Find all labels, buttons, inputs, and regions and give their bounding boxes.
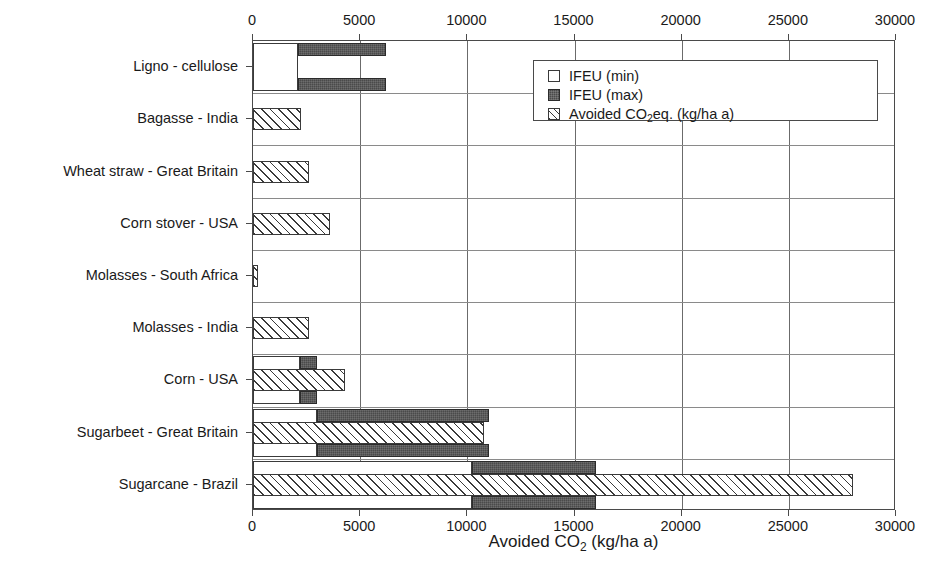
category-tick [246, 327, 252, 328]
x-axis-title-sub: 2 [580, 540, 587, 554]
top-tick-label-0: 0 [248, 12, 256, 28]
tick-5000 [359, 510, 360, 516]
tick-0 [252, 34, 253, 40]
category-label-sugarbeet-great-britain: Sugarbeet - Great Britain [77, 424, 238, 440]
category-label-molasses-india: Molasses - India [132, 319, 238, 335]
category-label-sugarcane-brazil: Sugarcane - Brazil [119, 476, 238, 492]
category-tick [246, 223, 252, 224]
category-separator [253, 198, 894, 199]
legend-label-ifeu-min: IFEU (min) [569, 68, 639, 84]
x-axis-title-post: (kg/ha a) [587, 532, 659, 551]
category-tick [246, 484, 252, 485]
top-tick-label-20000: 20000 [660, 12, 700, 28]
tick-5000 [359, 34, 360, 40]
category-tick [246, 379, 252, 380]
bar-avoided-co2-corn-stover-usa [253, 213, 330, 235]
category-separator [253, 354, 894, 355]
legend-label-ifeu-max: IFEU (max) [569, 87, 643, 103]
tick-10000 [466, 34, 467, 40]
avoided-co2-bar-chart: Ligno - celluloseBagasse - IndiaWheat st… [0, 0, 941, 586]
tick-30000 [895, 510, 896, 516]
tick-25000 [788, 34, 789, 40]
bar-ifeu-max-lower-sugarbeet-great-britain [317, 444, 488, 457]
legend-swatch-ifeu-max [548, 89, 560, 101]
category-separator [253, 407, 894, 408]
category-tick [246, 171, 252, 172]
category-tick [246, 66, 252, 67]
bar-ifeu-max-lower-ligno-cellulose [298, 78, 386, 91]
top-tick-label-30000: 30000 [875, 12, 915, 28]
category-label-bagasse-india: Bagasse - India [137, 110, 238, 126]
bottom-value-axis: 050001000015000200002500030000 [252, 510, 895, 511]
legend-item-ifeu-min: IFEU (min) [548, 67, 877, 85]
category-label-ligno-cellulose: Ligno - cellulose [133, 58, 238, 74]
tick-20000 [681, 510, 682, 516]
tick-30000 [895, 34, 896, 40]
top-tick-label-25000: 25000 [768, 12, 808, 28]
chart-legend: IFEU (min) IFEU (max) Avoided CO2eq. (kg… [533, 60, 878, 121]
bar-ifeu-max-upper-ligno-cellulose [298, 43, 386, 56]
legend-label-avoided-co2-post: eq. (kg/ha a) [653, 106, 734, 122]
top-tick-label-10000: 10000 [446, 12, 486, 28]
legend-label-avoided-co2-sub: 2 [647, 112, 653, 124]
bar-avoided-co2-wheat-straw-great-britain [253, 161, 309, 183]
category-separator [253, 459, 894, 460]
x-axis-title-pre: Avoided CO [489, 532, 580, 551]
category-separator [253, 145, 894, 146]
bar-avoided-co2-corn-usa [253, 369, 345, 391]
bar-avoided-co2-bagasse-india [253, 108, 301, 130]
legend-label-avoided-co2-pre: Avoided CO [569, 106, 647, 122]
top-tick-label-15000: 15000 [553, 12, 593, 28]
tick-25000 [788, 510, 789, 516]
bar-avoided-co2-sugarbeet-great-britain [253, 422, 484, 444]
category-label-corn-stover-usa: Corn stover - USA [120, 215, 238, 231]
bar-avoided-co2-molasses-india [253, 317, 309, 339]
tick-0 [252, 510, 253, 516]
x-axis-title: Avoided CO2 (kg/ha a) [252, 532, 895, 552]
bar-ifeu-min-ligno-cellulose [253, 43, 298, 91]
legend-label-avoided-co2: Avoided CO2eq. (kg/ha a) [569, 106, 734, 122]
bar-avoided-co2-molasses-south-africa [253, 265, 258, 287]
tick-10000 [466, 510, 467, 516]
category-tick [246, 275, 252, 276]
legend-swatch-avoided-co2 [548, 108, 560, 120]
category-label-molasses-south-africa: Molasses - South Africa [86, 267, 238, 283]
bar-ifeu-max-upper-sugarbeet-great-britain [317, 409, 488, 422]
top-value-axis: 050001000015000200002500030000 [252, 40, 895, 41]
category-separator [253, 250, 894, 251]
category-tick [246, 118, 252, 119]
tick-15000 [574, 510, 575, 516]
legend-swatch-ifeu-min [548, 70, 560, 82]
top-tick-label-5000: 5000 [343, 12, 375, 28]
legend-item-avoided-co2: Avoided CO2eq. (kg/ha a) [548, 105, 877, 123]
bar-ifeu-max-upper-corn-usa [300, 356, 317, 369]
tick-20000 [681, 34, 682, 40]
category-label-wheat-straw-great-britain: Wheat straw - Great Britain [63, 163, 238, 179]
bar-avoided-co2-sugarcane-brazil [253, 474, 853, 496]
bar-ifeu-max-upper-sugarcane-brazil [472, 461, 596, 474]
category-axis: Ligno - celluloseBagasse - IndiaWheat st… [0, 40, 246, 510]
tick-15000 [574, 34, 575, 40]
legend-item-ifeu-max: IFEU (max) [548, 86, 877, 104]
category-tick [246, 432, 252, 433]
bar-ifeu-max-lower-corn-usa [300, 391, 317, 404]
category-label-corn-usa: Corn - USA [164, 371, 238, 387]
category-separator [253, 302, 894, 303]
bar-ifeu-max-lower-sugarcane-brazil [472, 496, 596, 509]
